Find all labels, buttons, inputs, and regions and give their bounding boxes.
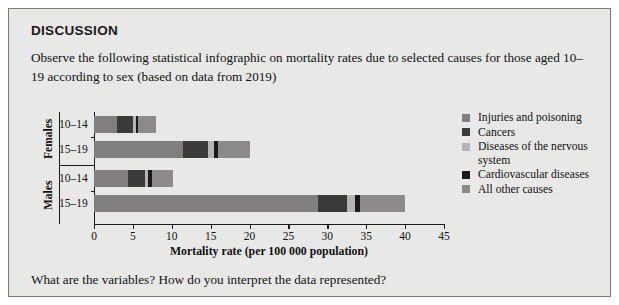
question-paragraph: What are the variables? How do you inter… [31, 271, 591, 290]
sex-group-label: Females [42, 112, 56, 165]
legend-label: Cancers [478, 126, 515, 139]
group-divider [59, 165, 95, 166]
legend-label: All other causes [478, 183, 553, 196]
x-axis-title: Mortality rate (per 100 000 population) [94, 244, 444, 259]
bar-segment [218, 141, 249, 158]
group-bracket-line [59, 166, 60, 224]
discussion-panel: DISCUSSION Observe the following statist… [8, 8, 611, 297]
legend-label: Cardiovascular diseases [478, 168, 589, 181]
legend-swatch-icon [462, 128, 470, 136]
x-tick [444, 224, 445, 229]
y-axis-tick [91, 137, 95, 138]
age-group-label-wrap: 10–14 [57, 118, 93, 132]
bar-females-10-14 [94, 116, 156, 133]
bar-segment [94, 116, 117, 133]
x-tick [172, 224, 173, 229]
age-group-label: 10–14 [59, 172, 93, 184]
x-tick [327, 224, 328, 229]
page-root: DISCUSSION Observe the following statist… [0, 0, 619, 305]
x-tick [250, 224, 251, 229]
legend-swatch-icon [462, 114, 470, 122]
infographic-figure: 10–1415–1910–1415–19FemalesMales 0510152… [30, 109, 600, 257]
legend-label: Injuries and poisoning [478, 111, 582, 124]
bar-segment [94, 141, 183, 158]
x-tick-label: 25 [275, 230, 301, 242]
bar-females-15-19 [94, 141, 250, 158]
bar-segment [94, 195, 318, 212]
group-bracket-line [59, 112, 60, 165]
x-tick-label: 30 [314, 230, 340, 242]
sex-group-label: Males [42, 166, 56, 224]
age-group-label: 15–19 [59, 143, 93, 155]
x-tick-label: 35 [353, 230, 379, 242]
x-tick [288, 224, 289, 229]
bar-males-15-19 [94, 195, 405, 212]
x-tick [211, 224, 212, 229]
bar-segment [152, 170, 174, 187]
x-tick [94, 224, 95, 229]
bar-segment [347, 195, 356, 212]
panel-title: DISCUSSION [31, 23, 118, 38]
legend-item: Diseases of the nervous system [462, 140, 619, 167]
x-tick-label: 45 [431, 230, 457, 242]
legend-item: Injuries and poisoning [462, 111, 619, 125]
age-group-label-wrap: 10–14 [57, 172, 93, 186]
age-group-label-wrap: 15–19 [57, 197, 93, 211]
legend-item: Cancers [462, 126, 619, 140]
intro-paragraph: Observe the following statistical infogr… [31, 49, 591, 86]
x-tick-label: 20 [237, 230, 263, 242]
chart-legend: Injuries and poisoningCancersDiseases of… [462, 111, 619, 197]
age-group-label: 15–19 [59, 197, 93, 209]
x-tick-label: 40 [392, 230, 418, 242]
bar-segment [128, 170, 144, 187]
legend-item: Cardiovascular diseases [462, 168, 619, 182]
bar-segment [94, 170, 128, 187]
bar-males-10-14 [94, 170, 173, 187]
legend-swatch-icon [462, 143, 470, 151]
x-tick [366, 224, 367, 229]
x-tick-label: 5 [120, 230, 146, 242]
y-axis-tick [91, 191, 95, 192]
legend-label: Diseases of the nervous system [478, 140, 588, 167]
age-group-label: 10–14 [59, 118, 93, 130]
bar-segment [138, 116, 156, 133]
x-axis-line [94, 224, 444, 225]
x-tick [133, 224, 134, 229]
x-tick-label: 15 [198, 230, 224, 242]
bar-segment [183, 141, 207, 158]
legend-swatch-icon [462, 185, 470, 193]
stacked-bar-chart: 10–1415–1910–1415–19FemalesMales 0510152… [30, 109, 450, 257]
bar-segment [318, 195, 347, 212]
bar-segment [117, 116, 133, 133]
x-tick [405, 224, 406, 229]
age-group-label-wrap: 15–19 [57, 143, 93, 157]
x-tick-label: 0 [81, 230, 107, 242]
legend-swatch-icon [462, 171, 470, 179]
legend-item: All other causes [462, 183, 619, 197]
bar-segment [360, 195, 405, 212]
x-tick-label: 10 [159, 230, 185, 242]
